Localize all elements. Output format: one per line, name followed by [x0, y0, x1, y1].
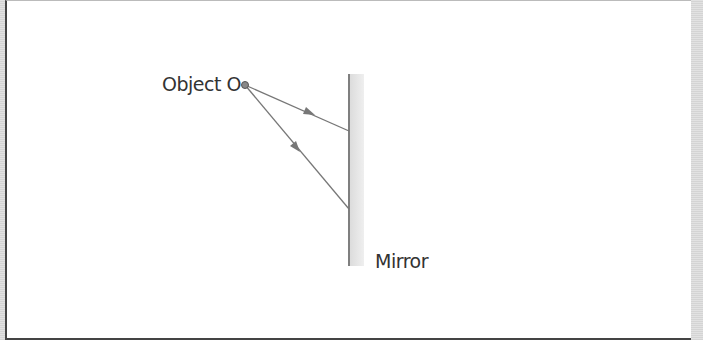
object-label: Object O	[162, 73, 241, 95]
object-point-icon	[242, 82, 249, 89]
mirror-shading	[350, 74, 364, 266]
ray-diagram	[0, 0, 703, 340]
ray-1	[245, 85, 349, 131]
arrowhead-icon	[303, 107, 315, 115]
mirror-label: Mirror	[375, 250, 428, 272]
arrowhead-icon	[290, 141, 300, 152]
